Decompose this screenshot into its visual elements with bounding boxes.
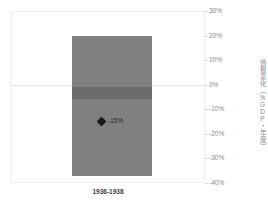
y-axis-tick-mark: [205, 36, 208, 37]
data-marker-group[interactable]: -15%: [98, 118, 123, 125]
y-axis-tick-label: 0%: [209, 81, 218, 88]
y-axis-title: 債務変化（%GDP・年度）: [259, 58, 266, 149]
y-axis-tick-label: 10%: [209, 57, 222, 64]
y-axis-tick-label: -20%: [209, 131, 224, 138]
y-axis-tick-mark: [205, 158, 208, 159]
chart-container: -15% 30%20%10%0%-10%-20%-30%-40% 債務変化（%G…: [0, 0, 268, 207]
y-axis-tick-mark: [205, 11, 208, 12]
x-axis-category-label: 1936-1938: [11, 189, 205, 196]
y-axis-tick-mark: [205, 134, 208, 135]
y-axis-tick-label: 20%: [209, 32, 222, 39]
y-axis-tick-mark: [205, 109, 208, 110]
y-axis-tick-mark: [205, 183, 208, 184]
y-axis-tick-label: -10%: [209, 106, 224, 113]
y-axis-tick-label: -30%: [209, 155, 224, 162]
y-axis-tick-label: -40%: [209, 180, 224, 187]
zero-band-highlight: [72, 87, 152, 99]
range-bar-1936-1938[interactable]: [72, 36, 152, 176]
marker-value-label: -15%: [108, 118, 123, 125]
diamond-marker-icon: [97, 116, 107, 126]
y-axis-tick-label: 30%: [209, 8, 222, 15]
y-axis-tick-mark: [205, 85, 208, 86]
y-axis-tick-mark: [205, 60, 208, 61]
